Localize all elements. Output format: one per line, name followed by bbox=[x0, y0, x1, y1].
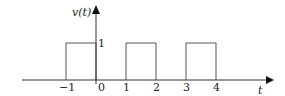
tick-label: 1 bbox=[123, 81, 130, 94]
tick-label: 0 bbox=[98, 81, 105, 94]
pulse-3 bbox=[186, 43, 216, 80]
waveform-diagram: v(t) 1 t −101234 bbox=[0, 0, 285, 96]
tick-label: −1 bbox=[59, 81, 75, 94]
tick-labels: −101234 bbox=[59, 81, 220, 94]
v-axis-label: v(t) bbox=[72, 6, 91, 19]
pulse-2 bbox=[126, 43, 156, 80]
tick-label: 4 bbox=[213, 81, 220, 94]
t-axis-arrow-icon bbox=[266, 76, 274, 84]
v-axis-arrow-icon bbox=[92, 5, 100, 14]
amplitude-label: 1 bbox=[98, 37, 105, 50]
pulse-1 bbox=[66, 43, 96, 80]
pulse-group bbox=[66, 43, 216, 80]
tick-label: 3 bbox=[183, 81, 190, 94]
tick-label: 2 bbox=[153, 81, 160, 94]
t-axis-label: t bbox=[258, 84, 263, 96]
